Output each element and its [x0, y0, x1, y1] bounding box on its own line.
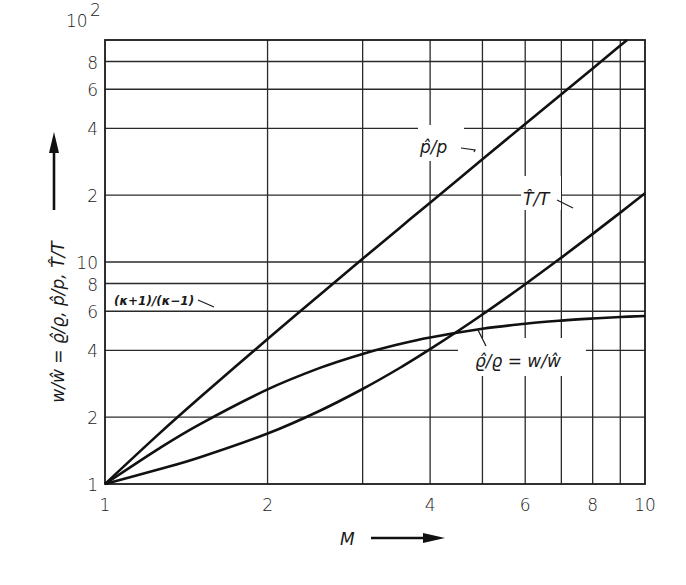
x-axis-arrow-icon: [371, 533, 445, 543]
x-tick-label: 4: [425, 495, 436, 515]
y-tick-label: 8: [87, 275, 98, 295]
x-tick-label: 6: [520, 495, 531, 515]
y-tick-100: 10: [66, 11, 88, 31]
y-axis-ticks: 12468102468: [76, 53, 98, 495]
x-axis-title: M: [340, 529, 355, 549]
y-tick-label: 1: [87, 475, 98, 495]
y-axis-arrow-icon: [49, 132, 59, 210]
y-tick-label: 10: [76, 253, 98, 273]
y-tick-label: 4: [87, 119, 98, 139]
grid-lines: [105, 40, 645, 484]
curve-label-t: T̂/T: [523, 189, 551, 209]
asymptote-label: (κ+1)/(κ−1): [114, 294, 194, 308]
x-tick-label: 8: [587, 495, 598, 515]
y-tick-label: 6: [87, 80, 98, 100]
x-tick-label: 10: [634, 495, 656, 515]
y-tick-100-exponent: 2: [90, 0, 101, 20]
chart: 1246810 12468102468 10 2 p̂/p T̂/T ϱ̂/ϱ …: [0, 0, 686, 585]
y-tick-label: 2: [87, 186, 98, 206]
y-tick-label: 2: [87, 408, 98, 428]
y-tick-label: 6: [87, 302, 98, 322]
x-tick-label: 1: [100, 495, 111, 515]
curve-label-rho: ϱ̂/ϱ = w/ŵ: [475, 351, 561, 371]
y-axis-title: w/ŵ = ϱ̂/ϱ, p̂/p, T̂/T: [48, 240, 68, 403]
x-tick-label: 2: [262, 495, 273, 515]
x-axis-ticks: 1246810: [100, 495, 656, 515]
y-tick-label: 8: [87, 53, 98, 73]
y-tick-label: 4: [87, 341, 98, 361]
curve-label-p: p̂/p: [419, 137, 448, 157]
